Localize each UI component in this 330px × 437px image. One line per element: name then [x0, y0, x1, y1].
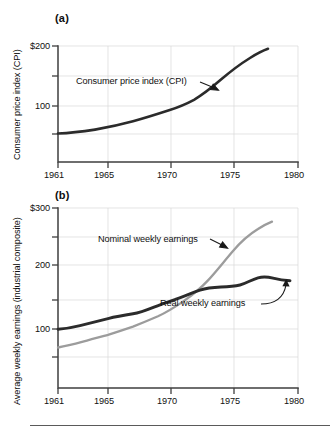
panel-b-series-annotation-real: Real weekly earnings	[160, 298, 245, 308]
panel-a-series-annotation-cpi: Consumer price index (CPI)	[76, 76, 187, 86]
panel-a-plot-area	[0, 0, 330, 190]
panel-a-x-ticks	[58, 162, 298, 168]
series-line-cpi	[58, 49, 268, 134]
panel-b-ytick-300: $300	[12, 203, 50, 213]
panel-b-x-ticks	[58, 388, 298, 394]
panel-b-annotation-arrow-real	[261, 285, 286, 304]
panel-b-series-annotation-nominal: Nominal weekly earnings	[98, 234, 198, 244]
panel-b-ytick-100: 100	[12, 324, 50, 334]
panel-b-xtick-1965: 1965	[94, 396, 114, 406]
chart-panel-b: (b) Average weekly earnings (industrial …	[0, 186, 330, 437]
chart-panel-a: (a) Consumer price index (CPI)	[0, 0, 330, 190]
panel-a-ytick-200: $200	[12, 41, 50, 51]
panel-b-annotation-arrow-nominal	[210, 239, 228, 248]
panel-a-ytick-100: 100	[12, 101, 50, 111]
panel-b-xtick-1975: 1975	[220, 396, 240, 406]
panel-a-y-ticks	[52, 46, 58, 134]
figure-bottom-rule	[30, 425, 330, 426]
panel-a-xtick-1980: 1980	[284, 170, 304, 180]
panel-a-xtick-1970: 1970	[157, 170, 177, 180]
panel-b-xtick-1980: 1980	[284, 396, 304, 406]
panel-b-xtick-1961: 1961	[44, 396, 64, 406]
panel-a-gridlines	[58, 46, 298, 162]
panel-a-xtick-1965: 1965	[94, 170, 114, 180]
panel-b-ytick-200: 200	[12, 260, 50, 270]
panel-a-xtick-1975: 1975	[220, 170, 240, 180]
figure-cpi-and-earnings: (a) Consumer price index (CPI)	[0, 0, 330, 437]
panel-a-axes	[58, 46, 298, 162]
panel-b-y-ticks	[52, 208, 58, 357]
panel-b-xtick-1970: 1970	[157, 396, 177, 406]
panel-a-xtick-1961: 1961	[44, 170, 64, 180]
